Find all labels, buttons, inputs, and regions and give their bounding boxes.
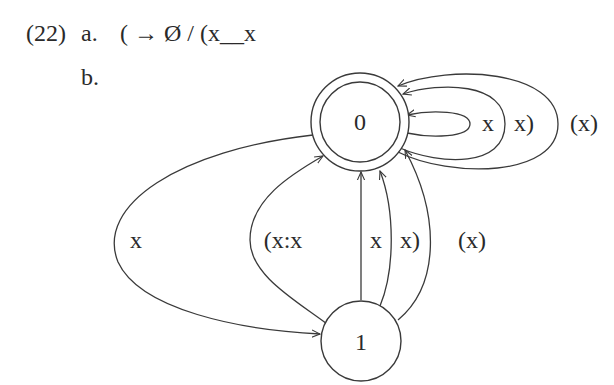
edge-label-loop-xparen: x) <box>514 110 534 136</box>
state-diagram: 0 1 x x) (x) x (x:x x x) (x) <box>0 0 614 385</box>
state-1-label: 1 <box>355 329 367 355</box>
edge-label-1-0-x: x <box>370 227 382 253</box>
edge-label-loop-parenx: (x) <box>570 110 598 136</box>
edge-label-1-0-xparen: x) <box>400 227 420 253</box>
edge-label-loop-x: x <box>482 110 494 136</box>
edge-label-0-1-x: x <box>130 227 142 253</box>
edge-label-1-0-parenxcolonx: (x:x <box>264 227 303 253</box>
state-0-label: 0 <box>354 109 366 135</box>
edge-0-0-x <box>407 112 470 136</box>
edge-label-1-0-parenx: (x) <box>458 227 486 253</box>
